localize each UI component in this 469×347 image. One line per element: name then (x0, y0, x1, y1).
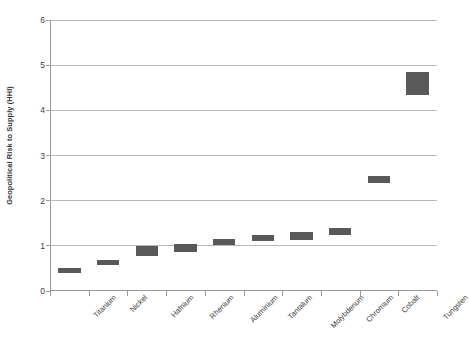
x-axis-label-rhenium: Rhenium (208, 293, 236, 321)
y-tick-mark (46, 110, 50, 111)
x-axis-label-chromium: Chromium (365, 293, 396, 324)
x-axis-label-hafnium: Hafnium (169, 293, 195, 319)
gridline (50, 20, 437, 21)
bar-molybdenum (290, 232, 312, 240)
y-tick-label: 2 (40, 196, 45, 206)
plot-area: 0123456 (50, 20, 437, 291)
bar-rhenium (174, 244, 196, 252)
gridline (50, 110, 437, 111)
gridline (50, 155, 437, 156)
x-axis-label-titanium: Titanium (92, 293, 119, 320)
y-tick-mark (46, 200, 50, 201)
y-tick-label: 4 (40, 105, 45, 115)
y-tick-label: 6 (40, 15, 45, 25)
x-tick-mark (437, 291, 438, 296)
bar-hafnium (136, 246, 158, 256)
bar-titanium (58, 268, 80, 273)
y-tick-label: 3 (40, 151, 45, 161)
bar-aluminium (213, 239, 235, 245)
x-axis-label-nickel: Nickel (128, 293, 149, 314)
bar-nickel (97, 260, 119, 265)
bar-cobalt (368, 176, 390, 183)
x-axis-label-aluminium: Aluminium (249, 293, 280, 324)
y-tick-label: 0 (40, 286, 45, 296)
x-axis-label-molybdenum: Molybdenum (328, 293, 365, 330)
y-axis-title-text: Geopolitical Risk to Supply (HHI) (5, 86, 14, 205)
y-tick-label: 1 (40, 241, 45, 251)
bar-tungsten (406, 72, 428, 95)
gridline (50, 200, 437, 201)
y-axis-title: Geopolitical Risk to Supply (HHI) (2, 0, 16, 291)
plot-inner: 0123456 (50, 20, 437, 291)
bar-chromium (329, 228, 351, 235)
x-axis-labels: TitaniumNickelHafniumRheniumAluminiumTan… (50, 291, 437, 347)
gridline (50, 65, 437, 66)
gridline (50, 245, 437, 246)
y-tick-label: 5 (40, 60, 45, 70)
y-tick-mark (46, 155, 50, 156)
y-tick-mark (46, 245, 50, 246)
y-tick-mark (46, 20, 50, 21)
y-tick-mark (46, 65, 50, 66)
bar-tantalum (252, 235, 274, 242)
x-axis-label-tantalum: Tantalum (286, 293, 314, 321)
x-axis-label-cobalt: Cobalt (399, 293, 421, 315)
x-axis-label-tungsten: Tungsten (441, 293, 469, 322)
